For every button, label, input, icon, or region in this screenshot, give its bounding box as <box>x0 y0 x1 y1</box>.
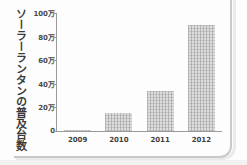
y-axis-tick-mark <box>53 84 57 85</box>
bar-2009 <box>64 130 91 131</box>
bar-2011 <box>147 91 174 131</box>
y-axis-tick-label: 80万 <box>29 32 55 42</box>
x-axis-tick-label: 2010 <box>109 136 128 144</box>
bar-2010 <box>105 113 132 131</box>
y-axis-tick-mark <box>53 107 57 108</box>
y-axis-tick-label: 40万 <box>29 79 55 89</box>
y-axis-title: ソーラーランタンの普及台数 <box>8 8 26 148</box>
x-axis-tick-label: 2012 <box>192 136 211 144</box>
x-axis-line <box>56 131 222 132</box>
y-axis-tick-label: 60万 <box>29 55 55 65</box>
y-axis-tick-label: 20万 <box>29 102 55 112</box>
x-axis-tick-label: 2009 <box>68 136 87 144</box>
plot-area <box>57 13 222 131</box>
chart-page: ソーラーランタンの普及台数 100万80万60万40万20万0 20092010… <box>0 0 247 165</box>
y-axis-tick-mark <box>53 131 57 132</box>
y-axis-tick-mark <box>53 37 57 38</box>
y-axis-tick-labels: 100万80万60万40万20万0 <box>28 0 55 165</box>
bar-2012 <box>188 25 215 131</box>
y-axis-tick-mark <box>53 13 57 14</box>
y-axis-tick-label: 100万 <box>29 8 55 18</box>
bar-chart: ソーラーランタンの普及台数 100万80万60万40万20万0 20092010… <box>0 0 247 165</box>
x-axis-tick-label: 2011 <box>150 136 169 144</box>
y-axis-tick-mark <box>53 60 57 61</box>
y-axis-tick-label: 0 <box>29 127 55 135</box>
